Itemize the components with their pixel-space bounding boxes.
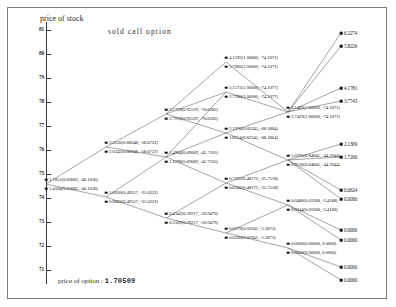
- tree-node-marker: [225, 65, 228, 68]
- tree-node-marker: [225, 236, 228, 239]
- terminal-node-marker: [340, 100, 343, 103]
- terminal-node-marker: [340, 189, 343, 192]
- tree-node-marker: [287, 106, 290, 109]
- tree-node-label: 0.9530(0.84845, -44.3944): [291, 162, 340, 167]
- tree-node-label: 0.0000(0.00000, 0.0000): [291, 241, 336, 246]
- tree-node-marker: [225, 227, 228, 230]
- tree-node-marker: [45, 178, 48, 181]
- tree-node-marker: [225, 186, 228, 189]
- tree-node-marker: [165, 160, 168, 163]
- tree-node-marker: [165, 117, 168, 120]
- terminal-node-marker: [340, 229, 343, 232]
- terminal-node-label: 0.0000: [344, 278, 357, 283]
- terminal-node-label: 4.1781: [344, 86, 357, 91]
- tree-node-marker: [105, 150, 108, 153]
- terminal-node-marker: [340, 143, 343, 146]
- tree-node-marker: [287, 242, 290, 245]
- terminal-node-marker: [340, 45, 343, 48]
- terminal-node-label: 0.0000: [344, 265, 357, 270]
- tree-node-label: 1.2298(0.69069, -45.7105): [169, 159, 218, 164]
- tree-node-label: 0.4342(0.29217, -20.9479): [169, 211, 218, 216]
- tree-node-label: 3.1759(0.95529, -70.6182): [169, 107, 218, 112]
- tree-node-label: 1.8254(0.82345, -68.1864): [229, 135, 278, 140]
- tree-node-label: 0.3169(0.29217, -20.9479): [169, 220, 218, 225]
- tree-node-marker: [105, 141, 108, 144]
- tree-node-label: 0.0200(0.01941, -1.3873): [229, 235, 276, 240]
- tree-node-label: 2.1976(0.82345, -68.1864): [229, 126, 278, 131]
- terminal-node-label: 3.7743: [344, 99, 357, 104]
- tree-node-label: 2.0345(0.80048, -58.6722): [109, 149, 158, 154]
- tree-node-label: 0.0279(0.01941, -1.3873): [229, 226, 276, 231]
- option-price-footer: price of option : 1.70509: [58, 277, 135, 285]
- tree-node-marker: [165, 108, 168, 111]
- terminal-node-label: 0.0624: [344, 188, 357, 193]
- tree-node-label: 1.7051(0.63682, -46.1036): [49, 177, 98, 182]
- tree-node-label: 0.6382(0.48172, -35.7518): [229, 185, 278, 190]
- tree-node-marker: [287, 163, 290, 166]
- tree-node-label: 3.1573(1.00000, -74.1077): [229, 85, 278, 90]
- tree-node-marker: [45, 187, 48, 190]
- terminal-node-label: 0.0000: [344, 238, 357, 243]
- tree-node-label: 0.0000(0.00000, 0.0000): [291, 250, 336, 255]
- terminal-node-marker: [340, 266, 343, 269]
- tree-node-marker: [287, 251, 290, 254]
- tree-node-marker: [287, 154, 290, 157]
- tree-node-label: 4.1593(1.00000, -74.1071): [229, 55, 278, 60]
- terminal-node-label: 0.0000: [344, 197, 357, 202]
- tree-node-label: 1.4504(0.63682, -46.1036): [49, 186, 98, 191]
- terminal-node-label: 1.7260: [344, 155, 357, 160]
- tree-node-label: 1.0030(0.49557, -35.0222): [109, 190, 158, 195]
- terminal-node-marker: [340, 239, 343, 242]
- terminal-node-label: 2.1309: [344, 142, 357, 147]
- tree-node-marker: [165, 212, 168, 215]
- terminal-node-label: 5.8226: [344, 44, 357, 49]
- tree-node-marker: [105, 200, 108, 203]
- tree-node-label: 2.7918(0.95529, -70.6182): [169, 116, 218, 121]
- tree-node-marker: [287, 115, 290, 118]
- terminal-node-marker: [340, 198, 343, 201]
- terminal-node-marker: [340, 156, 343, 159]
- tree-node-label: 0.8063(0.49557, -35.0222): [109, 199, 158, 204]
- tree-node-marker: [105, 191, 108, 194]
- option-price-value: 1.70509: [105, 277, 136, 285]
- tree-node-marker: [287, 208, 290, 211]
- tree-node-label: 0.7333(0.48172, -35.7518): [229, 176, 278, 181]
- tree-node-marker: [225, 56, 228, 59]
- option-price-label: price of option :: [58, 277, 103, 285]
- tree-node-label: 0.0480(0.03368, -2.4168): [291, 198, 338, 203]
- tree-node-marker: [225, 127, 228, 130]
- tree-node-marker: [225, 177, 228, 180]
- terminal-node-marker: [340, 279, 343, 282]
- figure-root: price of stock sold call option 81807978…: [0, 0, 396, 307]
- terminal-node-label: 0.0000: [344, 228, 357, 233]
- terminal-node-marker: [340, 32, 343, 35]
- terminal-node-marker: [340, 87, 343, 90]
- tree-node-marker: [225, 86, 228, 89]
- tree-node-marker: [287, 199, 290, 202]
- tree-node-label: 1.4904(0.69069, -45.7105): [169, 150, 218, 155]
- terminal-node-label: 6.2274: [344, 31, 357, 36]
- tree-node-marker: [225, 136, 228, 139]
- tree-node-label: 1.0705(0.84845, -44.3944): [291, 153, 340, 158]
- tree-node-label: 0.0344(0.03368, -2.4168): [291, 207, 338, 212]
- tree-node-label: 3.1469(1.00000, -74.1071): [291, 105, 340, 110]
- tree-node-marker: [165, 151, 168, 154]
- tree-node-label: 2.3556(0.80048, -58.6722): [109, 140, 158, 145]
- tree-node-label: 2.7580(1.00000, -74.1077): [229, 94, 278, 99]
- tree-node-marker: [225, 95, 228, 98]
- tree-node-label: 3.7960(1.00000, -74.1071): [229, 64, 278, 69]
- tree-node-label: 2.7429(1.00000, -74.1071): [291, 114, 340, 119]
- tree-node-marker: [165, 221, 168, 224]
